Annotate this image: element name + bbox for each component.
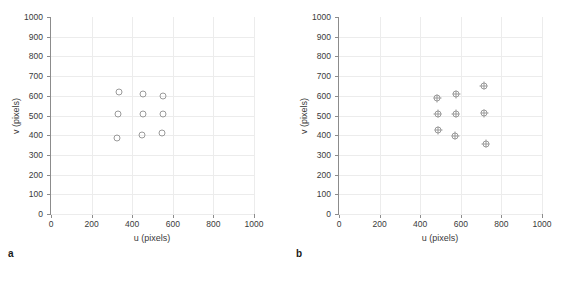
data-point-marker — [160, 93, 167, 100]
panel-a: 0200400600800100001002003004005006007008… — [0, 0, 287, 287]
gridline-horizontal — [339, 135, 542, 136]
data-point-marker — [452, 110, 459, 117]
gridline-vertical — [254, 17, 255, 214]
y-axis-tick-label: 900 — [317, 32, 331, 42]
y-axis-title-a: v (pixels) — [10, 17, 22, 215]
plot-area-b: 0200400600800100001002003004005006007008… — [338, 17, 542, 215]
y-axis-tick — [335, 116, 339, 117]
y-axis-tick — [47, 135, 51, 136]
data-point-marker — [452, 132, 459, 139]
y-axis-tick — [47, 37, 51, 38]
panel-caption-a: a — [8, 248, 14, 259]
y-axis-tick — [47, 17, 51, 18]
x-axis-tick-label: 800 — [494, 219, 508, 229]
gridline-horizontal — [51, 116, 254, 117]
x-axis-title-a: u (pixels) — [50, 233, 254, 243]
y-axis-title-a-text: v (pixels) — [11, 98, 21, 134]
gridline-horizontal — [51, 135, 254, 136]
x-axis-tick-label: 200 — [373, 219, 387, 229]
y-axis-tick — [335, 155, 339, 156]
y-axis-tick-label: 200 — [29, 170, 43, 180]
data-point-marker — [139, 110, 146, 117]
data-point-marker — [159, 129, 166, 136]
figure-container: 0200400600800100001002003004005006007008… — [0, 0, 575, 287]
y-axis-tick — [47, 194, 51, 195]
y-axis-tick — [335, 76, 339, 77]
y-axis-tick-label: 600 — [29, 91, 43, 101]
data-point-marker — [434, 95, 441, 102]
gridline-horizontal — [339, 194, 542, 195]
x-axis-tick-label: 800 — [206, 219, 220, 229]
y-axis-tick-label: 600 — [317, 91, 331, 101]
y-axis-title-b-text: v (pixels) — [299, 98, 309, 134]
x-axis-tick-label: 200 — [85, 219, 99, 229]
gridline-horizontal — [339, 56, 542, 57]
y-axis-tick — [47, 56, 51, 57]
y-axis-tick — [335, 56, 339, 57]
y-axis-tick-label: 400 — [317, 130, 331, 140]
gridline-horizontal — [339, 37, 542, 38]
gridline-horizontal — [51, 214, 254, 215]
data-point-marker — [140, 91, 147, 98]
x-axis-tick-label: 1000 — [533, 219, 552, 229]
y-axis-tick-label: 0 — [326, 209, 331, 219]
y-axis-tick-label: 300 — [29, 150, 43, 160]
x-axis-tick-label: 400 — [413, 219, 427, 229]
y-axis-tick-label: 500 — [29, 111, 43, 121]
y-axis-tick-label: 700 — [317, 71, 331, 81]
x-axis-title-b: u (pixels) — [338, 233, 542, 243]
x-axis-tick-label: 0 — [49, 219, 54, 229]
y-axis-tick — [335, 175, 339, 176]
y-axis-tick-label: 300 — [317, 150, 331, 160]
panel-b: 0200400600800100001002003004005006007008… — [288, 0, 575, 287]
y-axis-tick — [47, 116, 51, 117]
gridline-horizontal — [51, 76, 254, 77]
gridline-vertical — [542, 17, 543, 214]
y-axis-tick — [335, 37, 339, 38]
gridline-horizontal — [339, 214, 542, 215]
y-axis-tick-label: 100 — [317, 189, 331, 199]
y-axis-tick — [47, 175, 51, 176]
y-axis-tick-label: 200 — [317, 170, 331, 180]
data-point-marker — [116, 88, 123, 95]
panel-caption-b: b — [296, 248, 302, 259]
data-point-marker — [114, 111, 121, 118]
y-axis-tick-label: 400 — [29, 130, 43, 140]
gridline-horizontal — [51, 175, 254, 176]
y-axis-tick — [47, 155, 51, 156]
data-point-marker — [480, 82, 487, 89]
x-axis-tick-label: 400 — [125, 219, 139, 229]
data-point-marker — [482, 140, 489, 147]
data-point-marker — [139, 131, 146, 138]
gridline-horizontal — [339, 155, 542, 156]
data-point-marker — [481, 110, 488, 117]
y-axis-tick — [47, 214, 51, 215]
data-point-marker — [159, 110, 166, 117]
x-axis-tick — [542, 214, 543, 218]
gridline-horizontal — [51, 194, 254, 195]
y-axis-tick-label: 0 — [38, 209, 43, 219]
data-point-marker — [435, 127, 442, 134]
y-axis-title-b: v (pixels) — [298, 17, 310, 215]
y-axis-tick — [335, 194, 339, 195]
y-axis-tick-label: 500 — [317, 111, 331, 121]
y-axis-tick — [335, 96, 339, 97]
y-axis-tick — [47, 76, 51, 77]
y-axis-tick — [47, 96, 51, 97]
y-axis-tick-label: 700 — [29, 71, 43, 81]
x-axis-tick-label: 600 — [454, 219, 468, 229]
gridline-horizontal — [51, 56, 254, 57]
y-axis-tick — [335, 214, 339, 215]
y-axis-tick-label: 800 — [29, 51, 43, 61]
y-axis-tick — [335, 135, 339, 136]
x-axis-tick-label: 0 — [337, 219, 342, 229]
gridline-horizontal — [51, 96, 254, 97]
y-axis-tick-label: 1000 — [24, 12, 43, 22]
plot-area-a: 0200400600800100001002003004005006007008… — [50, 17, 254, 215]
x-axis-tick-label: 600 — [166, 219, 180, 229]
y-axis-tick-label: 800 — [317, 51, 331, 61]
data-point-marker — [113, 134, 120, 141]
gridline-horizontal — [339, 76, 542, 77]
data-point-marker — [453, 91, 460, 98]
y-axis-tick-label: 900 — [29, 32, 43, 42]
